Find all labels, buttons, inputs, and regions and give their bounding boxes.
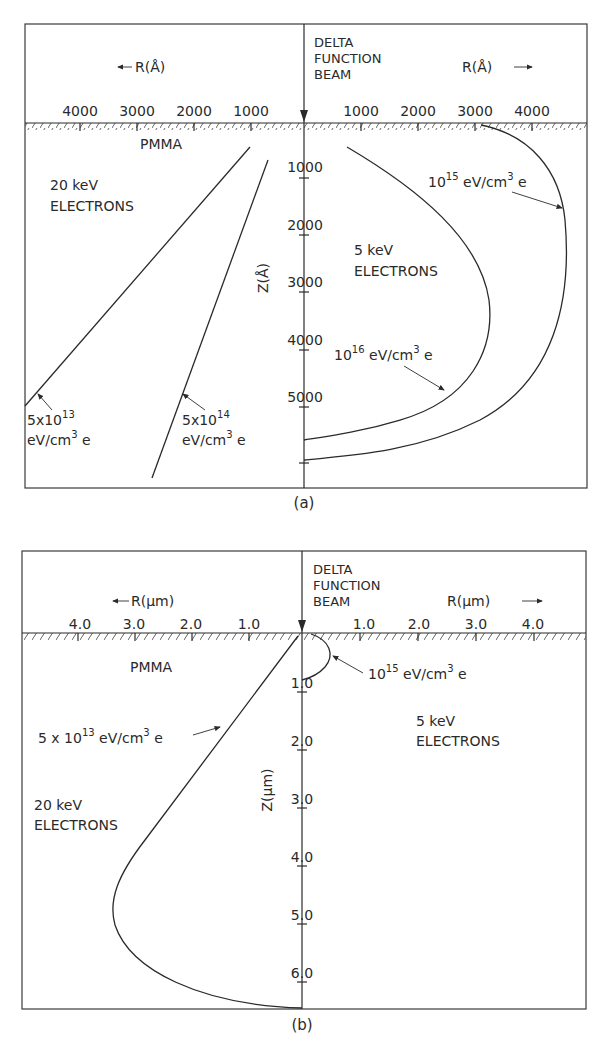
svg-text:FUNCTION: FUNCTION [313,578,381,593]
svg-text:3.0: 3.0 [465,616,487,632]
panel-a: 4000 3000 2000 1000 1000 2000 3000 4000 … [25,24,587,512]
material-label: PMMA [140,136,183,152]
r-tick-label: 2000 [176,103,212,119]
svg-text:BEAM: BEAM [313,594,350,609]
svg-text:eV/cm3 e: eV/cm3 e [182,429,246,448]
svg-text:ELECTRONS: ELECTRONS [50,198,134,214]
contour-a-20kev-5e14 [152,160,268,478]
leader-b-1e15 [333,656,363,673]
svg-text:3.0: 3.0 [291,791,313,807]
svg-text:DELTA: DELTA [313,562,353,577]
contour-label-a-1e16: 1016 eV/cm3 e [334,344,433,363]
svg-text:2.0: 2.0 [408,616,430,632]
svg-text:5x1013: 5x1013 [27,409,75,428]
svg-text:1016 eV/cm3 e: 1016 eV/cm3 e [334,344,433,363]
r-axis-label-left: R(Å) [135,59,165,75]
svg-text:4.0: 4.0 [291,849,313,865]
svg-text:20 keV: 20 keV [50,177,98,193]
r-axis-label-left: R(μm) [131,593,174,609]
svg-text:ELECTRONS: ELECTRONS [34,817,118,833]
svg-text:2.0: 2.0 [291,733,313,749]
svg-text:2000: 2000 [287,217,323,233]
svg-text:DELTA: DELTA [314,35,354,50]
svg-text:1015 eV/cm3 e: 1015 eV/cm3 e [368,663,467,682]
group-label-5kev: 5 keV ELECTRONS [354,242,438,279]
svg-text:2.0: 2.0 [180,616,202,632]
r-tick-label: 3000 [119,103,155,119]
r-tick-label: 1000 [343,103,379,119]
svg-text:4.0: 4.0 [522,616,544,632]
svg-text:5.0: 5.0 [291,907,313,923]
r-tick-label: 1000 [233,103,269,119]
svg-text:1.0: 1.0 [238,616,260,632]
group-label-5kev: 5 keV ELECTRONS [416,713,500,749]
panel-b-frame [22,551,586,1009]
svg-text:1015 eV/cm3 e: 1015 eV/cm3 e [428,171,527,190]
svg-text:ELECTRONS: ELECTRONS [354,263,438,279]
contour-label-b-1e15: 1015 eV/cm3 e [368,663,467,682]
group-label-20kev: 20 keV ELECTRONS [34,797,118,833]
r-tick-label: 3000 [457,103,493,119]
beam-label: DELTA FUNCTION BEAM [313,562,381,609]
svg-text:3.0: 3.0 [123,616,145,632]
svg-text:1.0: 1.0 [353,616,375,632]
group-label-20kev: 20 keV ELECTRONS [50,177,134,214]
leader-a-5e13 [38,394,52,410]
z-axis-label: Z(Å) [255,263,271,293]
svg-text:4.0: 4.0 [69,616,91,632]
beam-label: DELTA FUNCTION BEAM [314,35,382,82]
leader-a-5e14 [183,394,205,410]
r-axis-label-right: R(Å) [462,59,492,75]
svg-text:4000: 4000 [287,332,323,348]
panel-a-frame [25,24,587,488]
svg-text:3000: 3000 [287,274,323,290]
svg-text:BEAM: BEAM [314,67,351,82]
z-axis-label: Z(μm) [259,768,275,811]
r-tick-labels: 4.0 3.0 2.0 1.0 1.0 2.0 3.0 4.0 [69,616,544,632]
contour-label-a-5e13: 5x1013 eV/cm3 e [27,409,91,448]
surface-hatch [22,633,586,640]
beam-arrow-icon [298,620,306,632]
leader-b-5e13 [193,727,220,735]
surface-hatch [25,123,587,130]
r-tick-label: 4000 [62,103,98,119]
svg-text:6.0: 6.0 [291,965,313,981]
panel-b: 4.0 3.0 2.0 1.0 1.0 2.0 3.0 4.0 R(μm) R(… [22,551,586,1034]
contour-label-a-5e14: 5x1014 eV/cm3 e [182,409,246,448]
r-axis-label-right: R(μm) [447,593,490,609]
leader-a-1e15 [512,192,562,208]
r-tick-label: 2000 [400,103,436,119]
svg-text:1000: 1000 [287,159,323,175]
panel-b-caption: (b) [291,1016,312,1034]
z-tick-labels: 1000 2000 3000 4000 5000 [287,159,323,405]
svg-text:eV/cm3 e: eV/cm3 e [27,429,91,448]
svg-text:5x1014: 5x1014 [182,409,230,428]
contour-a-5kev-1e16 [304,147,490,440]
svg-text:5 keV: 5 keV [354,242,394,258]
panel-a-caption: (a) [294,494,315,512]
contour-b-5kev-1e15 [302,634,330,680]
energy-deposition-diagram: 4000 3000 2000 1000 1000 2000 3000 4000 … [0,0,602,1044]
contour-label-b-5e13: 5 x 1013 eV/cm3 e [38,727,163,746]
r-tick-label: 4000 [514,103,550,119]
beam-arrow-icon [300,110,308,122]
material-label: PMMA [130,659,173,675]
svg-text:20 keV: 20 keV [34,797,82,813]
svg-text:5 keV: 5 keV [416,713,456,729]
svg-text:FUNCTION: FUNCTION [314,51,382,66]
svg-text:ELECTRONS: ELECTRONS [416,733,500,749]
contour-b-20kev-5e13 [113,636,302,1008]
svg-text:5000: 5000 [287,389,323,405]
leader-a-1e16 [404,366,444,390]
svg-text:5 x 1013 eV/cm3 e: 5 x 1013 eV/cm3 e [38,727,163,746]
contour-label-a-1e15: 1015 eV/cm3 e [428,171,527,190]
